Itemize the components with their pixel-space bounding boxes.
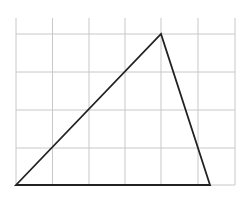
triangle-grid-diagram — [0, 0, 247, 197]
